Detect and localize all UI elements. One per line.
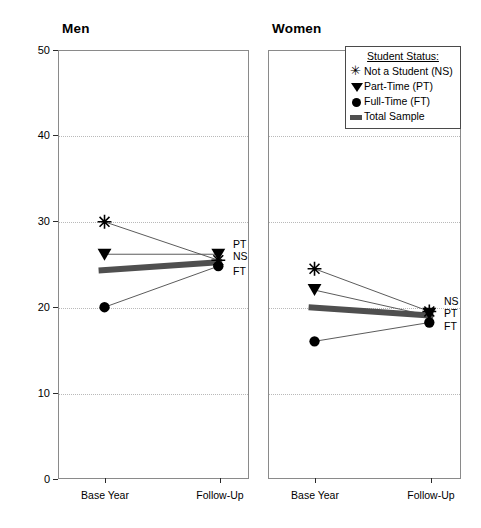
x-tick-follow-up-women: Follow-Up: [381, 489, 481, 501]
line-women-ns: [315, 269, 430, 312]
series-label-men-pt: PT: [233, 239, 246, 250]
band-men-total-sample: [99, 262, 223, 271]
legend-label-total-sample: Total Sample: [364, 111, 425, 122]
x-tickmark-base-year-men: [105, 478, 106, 483]
marker-women-ft-base: [309, 336, 319, 346]
marker-men-ns-base: [98, 215, 112, 229]
legend-item-total-sample: Total Sample: [350, 109, 456, 124]
x-tick-follow-up-men: Follow-Up: [170, 489, 270, 501]
x-tickmark-follow-up-men: [220, 478, 221, 483]
line-men-ft: [105, 266, 219, 307]
triangle-marker-icon: [350, 80, 364, 94]
legend: Student Status: Not a Student (NS) Part-…: [345, 46, 461, 129]
y-tickmark-0: [53, 479, 58, 480]
y-tick-50: 50: [16, 45, 50, 56]
legend-item-not-a-student: Not a Student (NS): [350, 64, 456, 79]
series-label-women-ft: FT: [444, 321, 457, 332]
plot-area-men: [59, 51, 248, 478]
line-women-ft: [315, 323, 430, 342]
y-tick-30: 30: [16, 216, 50, 227]
y-tick-0: 0: [16, 474, 50, 485]
panel-men: Men Base Year Follow-Up: [58, 50, 249, 479]
legend-item-part-time: Part-Time (PT): [350, 79, 456, 94]
y-tick-40: 40: [16, 130, 50, 141]
marker-women-pt-base: [308, 284, 322, 296]
legend-title: Student Status:: [350, 50, 456, 62]
marker-women-ns-base: [308, 262, 322, 276]
panel-title-men: Men: [62, 21, 90, 36]
x-tickmark-follow-up-women: [431, 478, 432, 483]
legend-label-not-a-student: Not a Student (NS): [364, 66, 453, 77]
x-tickmark-base-year-women: [315, 478, 316, 483]
series-label-women-ns: NS: [444, 296, 459, 307]
x-tick-base-year-women: Base Year: [265, 489, 365, 501]
series-label-women-pt: PT: [444, 308, 457, 319]
legend-label-part-time: Part-Time (PT): [364, 81, 433, 92]
band-women-total-sample: [309, 307, 434, 316]
legend-label-full-time: Full-Time (FT): [364, 96, 430, 107]
y-tick-10: 10: [16, 388, 50, 399]
marker-men-ft-follow: [213, 261, 223, 271]
band-marker-icon: [350, 110, 364, 124]
star-marker-icon: [350, 65, 364, 79]
panel-title-women: Women: [272, 21, 322, 36]
chart-figure: Percentage Reporting Marijuana Use in Pa…: [0, 0, 481, 528]
circle-marker-icon: [350, 95, 364, 109]
y-tick-20: 20: [16, 302, 50, 313]
legend-item-full-time: Full-Time (FT): [350, 94, 456, 109]
marker-women-ft-follow: [424, 317, 434, 327]
series-label-men-ft: FT: [233, 266, 246, 277]
marker-men-ft-base: [99, 302, 109, 312]
series-label-men-ns: NS: [233, 251, 248, 262]
x-tick-base-year-men: Base Year: [55, 489, 155, 501]
